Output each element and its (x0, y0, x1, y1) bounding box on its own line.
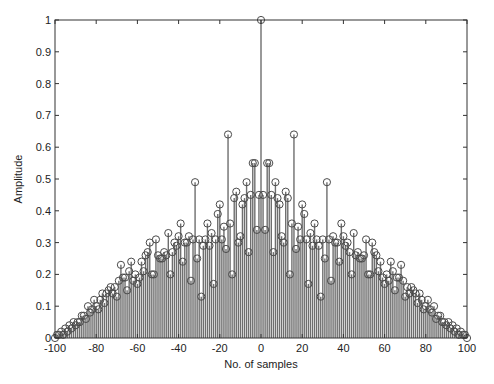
y-tick-label: 0.3 (36, 237, 51, 249)
x-tick-label: 40 (337, 342, 349, 354)
y-tick-label: 1 (45, 14, 51, 26)
x-tick-label: 0 (258, 342, 264, 354)
x-tick-label: 100 (458, 342, 476, 354)
x-tick-label: -80 (88, 342, 104, 354)
x-tick-label: 60 (378, 342, 390, 354)
y-axis-label: Amplitude (12, 155, 24, 204)
x-tick-label: -20 (212, 342, 228, 354)
y-tick-label: 0.2 (36, 268, 51, 280)
x-tick-label: 20 (296, 342, 308, 354)
y-tick-label: 0.5 (36, 173, 51, 185)
y-tick-label: 0.6 (36, 141, 51, 153)
y-tick-label: 0 (45, 332, 51, 344)
x-tick-label: -40 (171, 342, 187, 354)
y-tick-label: 0.4 (36, 205, 51, 217)
y-tick-label: 0.8 (36, 78, 51, 90)
stem-series (51, 16, 470, 341)
stem-chart: -100-80-60-40-20020406080100 00.10.20.30… (0, 0, 494, 384)
x-tick-label: 80 (420, 342, 432, 354)
x-axis-label: No. of samples (224, 358, 298, 370)
x-tick-label: -60 (129, 342, 145, 354)
y-tick-label: 0.1 (36, 300, 51, 312)
y-tick-label: 0.7 (36, 109, 51, 121)
y-tick-label: 0.9 (36, 46, 51, 58)
